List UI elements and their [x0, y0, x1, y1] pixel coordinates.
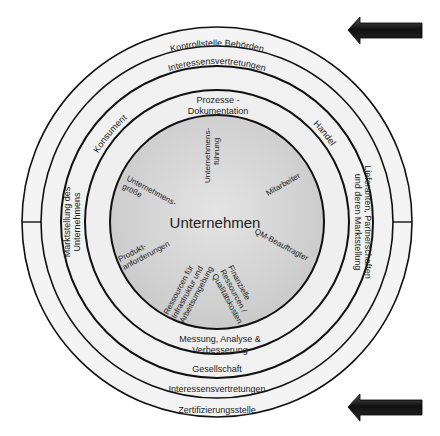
- ring3-left-line2: Unternehmens: [72, 192, 82, 252]
- ring4-top-line2: Dokumentation: [188, 106, 249, 116]
- spoke-fuehrung-line2: führung: [212, 138, 221, 165]
- ring4-bottom-line1: Messung, Analyse &: [179, 334, 261, 344]
- ring4-bottom-line2: Verbesserung: [192, 345, 248, 355]
- ring3-left-line1: Marktstellung des: [62, 186, 72, 257]
- qm-environment-diagram: Kontrollstelle Behörden Interessensvertr…: [0, 0, 440, 436]
- ring3-right-line2: und deren Marktstellung: [353, 174, 363, 271]
- ring3-gesellschaft-label: Gesellschaft: [192, 364, 242, 374]
- spoke-fuehrung-line1: Unternehmens-: [203, 128, 212, 183]
- top-right-arrow-icon: [348, 17, 422, 44]
- ring3-right-line1: Lieferanten, Partnerschaften: [363, 165, 373, 279]
- bottom-right-arrow-icon: [348, 394, 422, 421]
- outer-ring-bottom-label: Zertifizierungsstelle: [178, 405, 256, 415]
- center-label: Unternehmen: [170, 214, 261, 231]
- ring2-bottom-label: Interessensvertretungen: [168, 384, 265, 394]
- ring4-top-line1: Prozesse -: [196, 95, 239, 105]
